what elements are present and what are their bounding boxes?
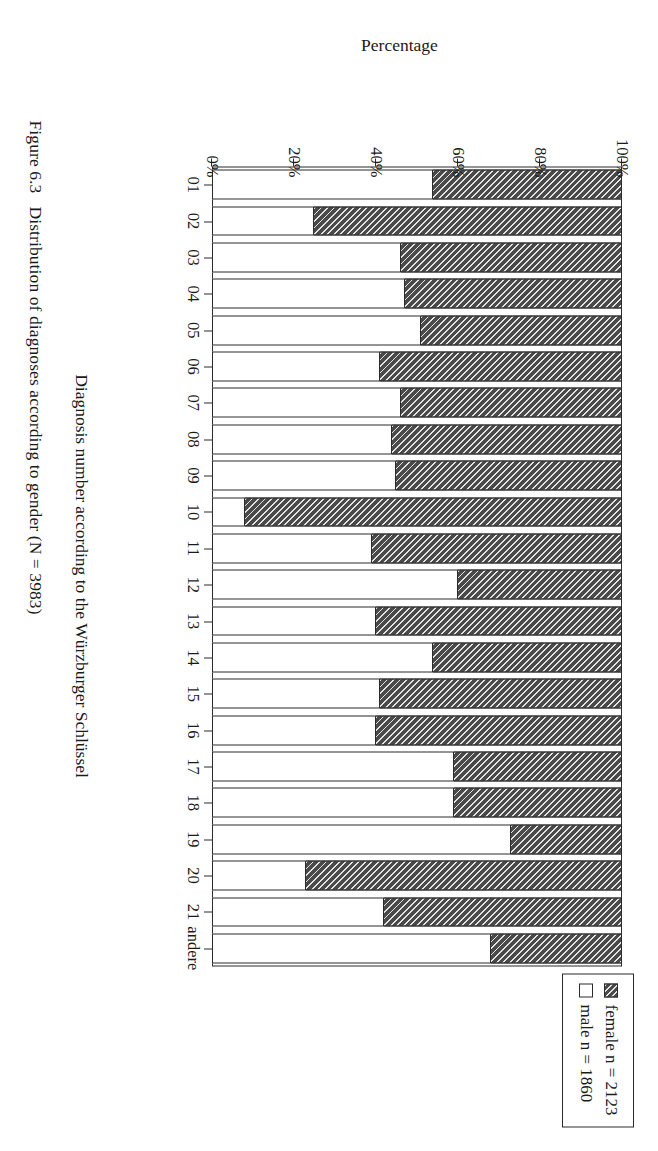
bar-segment-male (212, 387, 401, 417)
figure-container: 0%20%40%60%80%100% Percentage 0102030405… (0, 0, 658, 1151)
bar-stack (212, 678, 622, 708)
x-axis-tick (204, 911, 212, 912)
bar-segment-male (212, 533, 372, 563)
bar-stack (212, 606, 622, 636)
bar-segment-female (380, 351, 622, 381)
bar-segment-female (454, 787, 622, 817)
bar-segment-male (212, 606, 376, 636)
plot-area (212, 166, 622, 966)
bar-segment-female (380, 678, 622, 708)
x-axis-tick-label: 20 (183, 867, 203, 884)
x-axis-tick (204, 330, 212, 331)
figure-caption: Figure 6.3Distribution of diagnoses acco… (25, 120, 46, 614)
bar-segment-male (212, 278, 405, 308)
bar-segment-male (212, 315, 421, 345)
bar-stack (212, 787, 622, 817)
bar-stack (212, 933, 622, 963)
bar-segment-male (212, 678, 380, 708)
figure-number: Figure 6.3 (26, 120, 46, 193)
x-axis-tick (204, 439, 212, 440)
bar-segment-female (401, 242, 622, 272)
bar-segment-male (212, 897, 384, 927)
x-axis-tick-label: 03 (183, 249, 203, 266)
legend: female n = 2123 male n = 1860 (562, 973, 634, 1127)
bar-segment-female (405, 278, 622, 308)
x-axis-tick (204, 730, 212, 731)
x-axis-tick-label: 14 (183, 649, 203, 666)
figure-caption-text: Distribution of diagnoses according to g… (26, 206, 46, 614)
x-axis-tick (204, 511, 212, 512)
x-axis-tick (204, 584, 212, 585)
bar-segment-male (212, 169, 433, 199)
bar-stack (212, 533, 622, 563)
rotated-figure-wrapper: 0%20%40%60%80%100% Percentage 0102030405… (0, 0, 658, 1151)
bar-stack (212, 860, 622, 890)
y-axis-title: Percentage (300, 35, 500, 56)
x-axis-tick (204, 766, 212, 767)
x-axis-tick-label: 06 (183, 358, 203, 375)
legend-item-male: male n = 1860 (576, 983, 596, 1115)
legend-label-male: male n = 1860 (576, 1004, 596, 1102)
bar-segment-female (384, 897, 622, 927)
x-axis-tick-label: 16 (183, 721, 203, 738)
x-axis-tick-label: 12 (183, 576, 203, 593)
bar-stack (212, 897, 622, 927)
bar-segment-male (212, 933, 491, 963)
x-axis-tick (204, 366, 212, 367)
x-axis-tick (204, 475, 212, 476)
x-axis-tick-label: 18 (183, 794, 203, 811)
x-axis-tick (204, 621, 212, 622)
x-axis-tick (204, 875, 212, 876)
x-axis-tick-label: 08 (183, 430, 203, 447)
bar-segment-female (511, 824, 622, 854)
legend-swatch-female-icon (604, 983, 618, 997)
x-axis-tick-label: 02 (183, 212, 203, 229)
bar-segment-female (458, 569, 622, 599)
x-axis-tick-label: 21 (183, 903, 203, 920)
bar-stack (212, 642, 622, 672)
x-axis-tick-label: 15 (183, 685, 203, 702)
x-axis-tick (204, 257, 212, 258)
bar-stack (212, 206, 622, 236)
bar-segment-male (212, 860, 306, 890)
bar-stack (212, 242, 622, 272)
bar-segment-male (212, 569, 458, 599)
bar-stack (212, 569, 622, 599)
bar-stack (212, 351, 622, 381)
y-axis-tick-label: 60% (448, 147, 468, 177)
bar-segment-male (212, 424, 392, 454)
x-axis-tick-label: 17 (183, 758, 203, 775)
x-axis-tick (204, 402, 212, 403)
bar-stack (212, 460, 622, 490)
bar-segment-female (392, 424, 622, 454)
x-axis-tick (204, 693, 212, 694)
x-axis-tick (204, 802, 212, 803)
x-axis-tick-label: andere (183, 926, 203, 970)
y-axis-tick-label: 100% (612, 139, 632, 178)
x-axis-tick-label: 13 (183, 612, 203, 629)
bar-stack (212, 315, 622, 345)
bar-segment-female (376, 715, 622, 745)
x-axis-tick-label: 11 (183, 540, 203, 556)
bar-segment-female (421, 315, 622, 345)
x-axis-tick-label: 09 (183, 467, 203, 484)
x-axis-tick (204, 548, 212, 549)
bar-segment-male (212, 460, 397, 490)
x-axis-tick (204, 839, 212, 840)
bar-stack (212, 424, 622, 454)
x-axis-title: Diagnosis number according to the Würzbu… (71, 0, 92, 1151)
x-axis-tick-label: 19 (183, 830, 203, 847)
bar-segment-male (212, 715, 376, 745)
y-axis-tick-label: 0% (202, 155, 222, 177)
bar-segment-male (212, 824, 511, 854)
bar-stack (212, 751, 622, 781)
bar-segment-female (245, 497, 622, 527)
bar-segment-female (376, 606, 622, 636)
bar-segment-male (212, 242, 401, 272)
bar-segment-female (306, 860, 622, 890)
bar-segment-male (212, 787, 454, 817)
legend-label-female: female n = 2123 (601, 1004, 621, 1115)
bar-stack (212, 169, 622, 199)
bar-segment-female (454, 751, 622, 781)
x-axis-tick (204, 221, 212, 222)
